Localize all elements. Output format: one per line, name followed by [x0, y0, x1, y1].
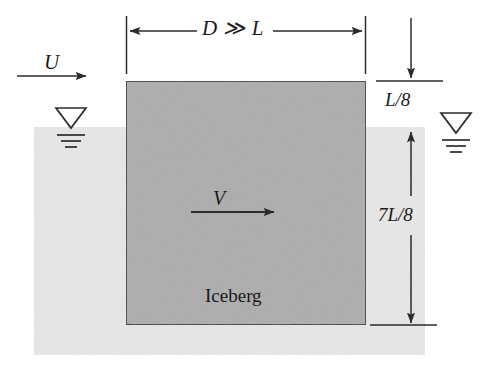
- iceberg-diagram: D ≫ L U V L/8 7L/8 Iceberg: [0, 0, 486, 373]
- free-surface-symbol-right: [441, 113, 471, 152]
- iceberg-body-label: Iceberg: [205, 286, 262, 305]
- freeboard-dimension: [376, 18, 443, 81]
- diagram-canvas: [0, 0, 486, 373]
- freestream-velocity-label: U: [44, 52, 59, 73]
- free-surface-triangle-icon: [441, 113, 471, 133]
- freeboard-dimension-label: L/8: [385, 90, 410, 109]
- draft-dimension-label: 7L/8: [378, 205, 413, 224]
- iceberg-velocity-label: V: [213, 188, 225, 208]
- free-surface-triangle-icon: [56, 108, 86, 128]
- width-dimension-label: D ≫ L: [202, 18, 264, 39]
